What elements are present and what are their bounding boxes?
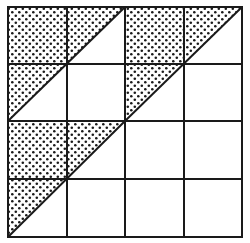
grid-diagram [0, 0, 250, 243]
